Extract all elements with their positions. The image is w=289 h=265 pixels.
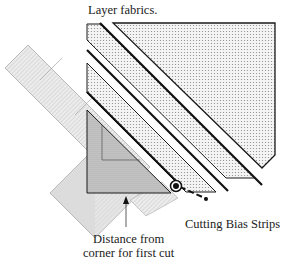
layer-fabrics-label: Layer fabrics. [88,3,157,17]
distance-from-corner-label: Distance from corner for first cut [83,232,174,260]
fabric-layers [87,22,275,193]
distance-line-1: Distance from [83,232,174,246]
distance-line-2: corner for first cut [83,246,174,260]
cutting-bias-strips-label: Cutting Bias Strips [185,217,280,231]
